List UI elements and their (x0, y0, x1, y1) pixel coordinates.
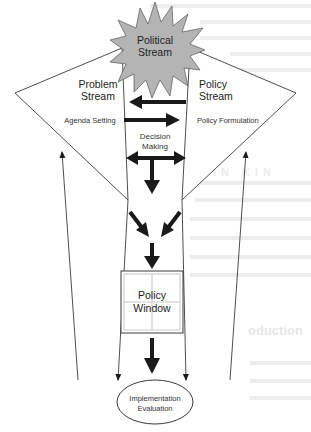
arrow-problem-to-policy (124, 113, 180, 127)
implementation-label: Implementation (129, 394, 180, 403)
arrow-to-policy-window (144, 243, 160, 269)
arrow-to-implementation (144, 338, 160, 374)
decision-double-arrow (126, 151, 186, 194)
converging-arrows (130, 212, 180, 237)
political-stream-label-1: Political (137, 34, 173, 46)
problem-stream-label-1: Problem (78, 78, 117, 90)
policy-window-label-2: Window (133, 302, 171, 314)
decision-making-label-2: Making (142, 142, 168, 151)
policy-process-diagram: oduction HIN KIN Political Stream Proble… (0, 0, 311, 432)
problem-stream-label-2: Stream (81, 90, 115, 102)
policy-stream-label-2: Stream (199, 90, 233, 102)
arrow-policy-to-problem (129, 95, 186, 109)
political-stream-label-2: Stream (138, 46, 172, 58)
policy-stream-label-1: Policy (199, 78, 228, 90)
agenda-setting-label: Agenda Setting (64, 116, 115, 125)
bleed-heading: oduction (248, 323, 303, 338)
evaluation-label: Evaluation (137, 404, 172, 413)
policy-window-label-1: Policy (138, 289, 167, 301)
policy-formulation-label: Policy Formulation (197, 116, 259, 125)
decision-making-label-1: Decision (140, 132, 171, 141)
